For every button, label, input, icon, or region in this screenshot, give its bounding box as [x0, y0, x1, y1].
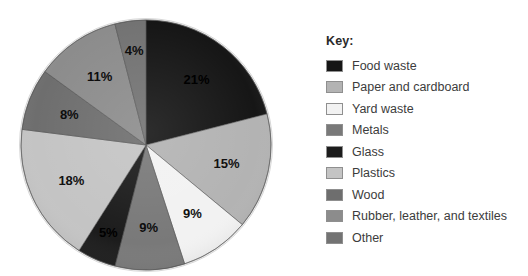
legend-item: Other: [326, 227, 526, 249]
legend-swatch-icon: [326, 232, 343, 244]
legend-item: Plastics: [326, 163, 526, 185]
legend-item-label: Yard waste: [352, 103, 414, 116]
legend-item-label: Metals: [352, 124, 389, 137]
legend-swatch-icon: [326, 210, 343, 222]
legend-item-label: Glass: [352, 146, 384, 159]
legend: Key: Food wastePaper and cardboardYard w…: [326, 34, 526, 249]
legend-swatch-icon: [326, 189, 343, 201]
legend-item: Wood: [326, 184, 526, 206]
legend-item: Yard waste: [326, 98, 526, 120]
legend-item: Food waste: [326, 55, 526, 77]
legend-swatch-icon: [326, 60, 343, 72]
pie-slice-label: 18%: [58, 173, 84, 188]
legend-item: Paper and cardboard: [326, 77, 526, 99]
pie-chart-figure: 21%15%9%9%5%18%8%11%4% Key: Food wastePa…: [0, 0, 528, 276]
legend-item-label: Rubber, leather, and textiles: [352, 210, 507, 223]
pie-slice-label: 11%: [87, 69, 113, 84]
pie-slice-label: 5%: [99, 225, 118, 240]
legend-swatch-icon: [326, 124, 343, 136]
pie-slice-label: 4%: [125, 43, 144, 58]
legend-item-label: Other: [352, 232, 383, 245]
pie-slice-label: 9%: [139, 220, 158, 235]
legend-item-label: Paper and cardboard: [352, 81, 469, 94]
legend-rows: Food wastePaper and cardboardYard wasteM…: [326, 55, 526, 249]
pie-slice-label: 15%: [213, 156, 239, 171]
legend-item-label: Plastics: [352, 167, 395, 180]
pie-slice-label: 21%: [184, 72, 210, 87]
legend-item: Glass: [326, 141, 526, 163]
pie-slice-label: 9%: [183, 206, 202, 221]
legend-item-label: Wood: [352, 189, 384, 202]
legend-swatch-icon: [326, 81, 343, 93]
legend-title: Key:: [326, 34, 526, 48]
legend-item-label: Food waste: [352, 60, 417, 73]
legend-swatch-icon: [326, 103, 343, 115]
pie-chart-svg: 21%15%9%9%5%18%8%11%4%: [0, 0, 300, 276]
legend-item: Rubber, leather, and textiles: [326, 206, 526, 228]
legend-swatch-icon: [326, 167, 343, 179]
legend-swatch-icon: [326, 146, 343, 158]
pie-chart-area: 21%15%9%9%5%18%8%11%4%: [0, 0, 300, 276]
pie-slice-label: 8%: [60, 107, 79, 122]
legend-item: Metals: [326, 120, 526, 142]
